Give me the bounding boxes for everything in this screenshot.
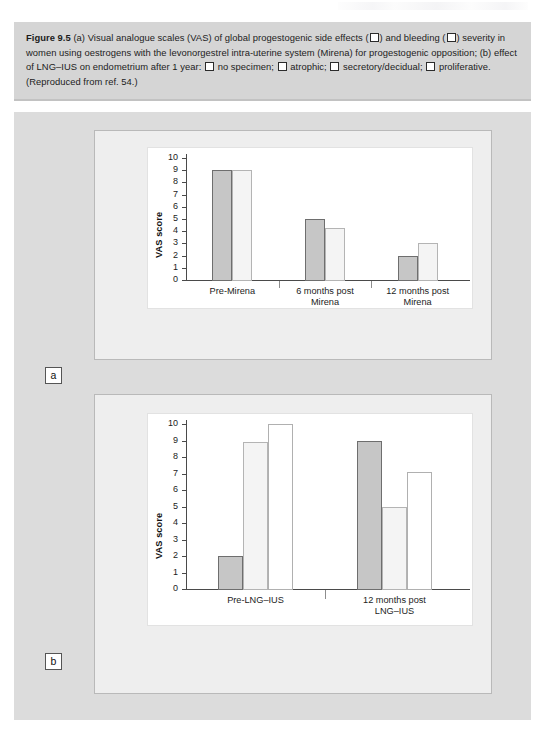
y-axis-tick-label: 5 — [162, 214, 178, 223]
y-axis-tick — [182, 540, 186, 541]
legend-swatch-icon — [426, 62, 435, 71]
chart-card-b: 012345678910VAS scorePre-LNG–IUS12 month… — [94, 394, 492, 694]
y-axis-tick-label: 0 — [162, 275, 178, 284]
y-axis-tick-label: 0 — [162, 584, 178, 593]
bar — [325, 228, 345, 281]
y-axis-tick-label: 2 — [162, 251, 178, 260]
y-axis-tick-label: 10 — [162, 419, 178, 428]
y-axis-tick — [182, 556, 186, 557]
bar — [382, 507, 407, 591]
bar — [398, 256, 418, 281]
y-axis-tick — [182, 243, 186, 244]
y-axis-tick-label: 7 — [162, 469, 178, 478]
bar — [418, 243, 438, 281]
y-axis-tick-label: 6 — [162, 485, 178, 494]
y-axis-line — [186, 420, 187, 589]
y-axis-tick — [182, 207, 186, 208]
legend-swatch-icon — [278, 62, 287, 71]
bar — [218, 556, 243, 590]
y-axis-tick — [182, 256, 186, 257]
y-axis-tick-label: 8 — [162, 452, 178, 461]
bar — [268, 424, 293, 590]
x-axis-category-label: 12 months post LNG–IUS — [307, 595, 482, 617]
panel-label-b: b — [45, 653, 62, 670]
legend-swatch-icon — [205, 62, 214, 71]
y-axis-tick — [182, 441, 186, 442]
panel-label-a: a — [45, 367, 62, 384]
y-axis-tick — [182, 589, 186, 590]
y-axis-tick — [182, 268, 186, 269]
figure-caption: Figure 9.5 (a) Visual analogue scales (V… — [14, 22, 531, 101]
figure-number: Figure 9.5 — [26, 32, 71, 43]
figure-caption-text: Figure 9.5 (a) Visual analogue scales (V… — [26, 31, 519, 89]
y-axis-tick-label: 1 — [162, 263, 178, 272]
y-axis-tick — [182, 424, 186, 425]
figure-page: Figure 9.5 (a) Visual analogue scales (V… — [0, 0, 545, 730]
y-axis-tick-label: 6 — [162, 202, 178, 211]
y-axis-tick — [182, 474, 186, 475]
y-axis-tick — [182, 182, 186, 183]
bar — [357, 441, 382, 591]
y-axis-tick — [182, 457, 186, 458]
y-axis-tick — [182, 158, 186, 159]
y-axis-tick — [182, 507, 186, 508]
bar — [243, 442, 268, 590]
y-axis-tick — [182, 490, 186, 491]
y-axis-tick-label: 8 — [162, 177, 178, 186]
legend-swatch-icon — [447, 33, 456, 42]
y-axis-tick-label: 10 — [162, 153, 178, 162]
y-axis-tick-label: 2 — [162, 551, 178, 560]
y-axis-tick — [182, 170, 186, 171]
y-axis-tick — [182, 523, 186, 524]
figure-body: a b 012345678910VAS scorePre-Mirena6 mon… — [14, 112, 531, 720]
y-axis-tick-label: 9 — [162, 165, 178, 174]
y-axis-tick-label: 5 — [162, 502, 178, 511]
y-axis-tick — [182, 219, 186, 220]
bar — [407, 472, 432, 590]
y-axis-tick-label: 7 — [162, 190, 178, 199]
y-axis-line — [186, 154, 187, 280]
y-axis-tick-label: 9 — [162, 436, 178, 445]
y-axis-tick-label: 4 — [162, 226, 178, 235]
y-axis-tick — [182, 195, 186, 196]
chart-plot-a: 012345678910VAS scorePre-Mirena6 months … — [147, 147, 473, 309]
y-axis-tick — [182, 573, 186, 574]
legend-swatch-icon — [370, 33, 379, 42]
y-axis-title: VAS score — [154, 513, 164, 559]
y-axis-title: VAS score — [154, 212, 164, 258]
legend-swatch-icon — [330, 62, 339, 71]
bar — [305, 219, 325, 281]
bar — [212, 170, 232, 281]
y-axis-tick-label: 4 — [162, 518, 178, 527]
y-axis-tick — [182, 280, 186, 281]
y-axis-tick-label: 3 — [162, 238, 178, 247]
bar — [232, 170, 252, 281]
chart-card-a: 012345678910VAS scorePre-Mirena6 months … — [94, 130, 492, 360]
y-axis-tick-label: 3 — [162, 535, 178, 544]
chart-plot-b: 012345678910VAS scorePre-LNG–IUS12 month… — [147, 413, 473, 626]
x-axis-category-label: 12 months post Mirena — [353, 286, 482, 308]
y-axis-tick — [182, 231, 186, 232]
y-axis-tick-label: 1 — [162, 568, 178, 577]
scan-artifact — [338, 2, 528, 10]
